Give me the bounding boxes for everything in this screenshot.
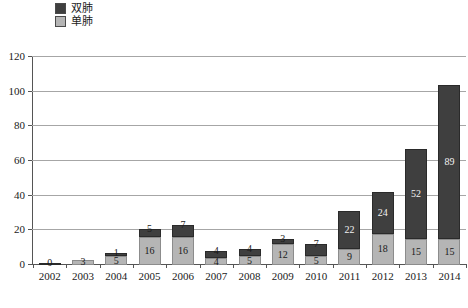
bar-stack[interactable]: 2418 [372, 192, 394, 265]
bar-segment-double-lung[interactable]: 24 [372, 192, 394, 234]
bar-segment-single-lung[interactable]: 16 [172, 237, 194, 265]
bar-value-label-single-lung: 9 [347, 252, 352, 262]
bar-stack[interactable]: 312 [272, 239, 294, 265]
bar-segment-single-lung[interactable]: 9 [338, 249, 360, 265]
stacked-bar-chart: 020406080100120 031551671644453127522924… [0, 48, 468, 308]
bar-value-label-double-lung: 4 [247, 244, 252, 254]
bar-group-2013[interactable]: 5215 [399, 56, 432, 265]
y-tick-mark [28, 264, 32, 265]
bar-value-label-single-lung: 16 [145, 246, 155, 256]
y-tick-label: 120 [9, 51, 26, 62]
bar-value-label-single-lung: 18 [378, 244, 388, 254]
bar-value-label-single-lung: 16 [178, 246, 188, 256]
bar-group-2011[interactable]: 229 [333, 56, 366, 265]
legend-item-double-lung: 双肺 [55, 2, 175, 14]
bar-stack[interactable]: 8915 [438, 85, 460, 265]
x-tick-mark [133, 264, 134, 268]
bar-stack[interactable]: 5215 [405, 149, 427, 265]
bar-segment-double-lung[interactable]: 52 [405, 149, 427, 239]
x-tick-label-2009: 2009 [266, 270, 299, 282]
bar-stack[interactable]: 0 [39, 263, 61, 265]
x-tick-label-2008: 2008 [233, 270, 266, 282]
bar-segment-single-lung[interactable]: 3 [72, 260, 94, 265]
y-tick-label: 20 [14, 224, 25, 235]
bar-segment-double-lung[interactable]: 89 [438, 85, 460, 239]
bar-segment-single-lung[interactable]: 15 [405, 239, 427, 265]
bar-group-2005[interactable]: 516 [133, 56, 166, 265]
x-tick-label-2004: 2004 [100, 270, 133, 282]
bar-segment-single-lung[interactable]: 12 [272, 244, 294, 265]
x-tick-mark [333, 264, 334, 268]
x-tick-label-2003: 2003 [66, 270, 99, 282]
bar-value-label-single-lung: 12 [278, 250, 288, 260]
bar-segment-double-lung[interactable]: 0 [39, 263, 61, 265]
bar-stack[interactable]: 15 [105, 253, 127, 265]
bar-value-label-double-lung: 3 [280, 234, 285, 244]
bar-segment-single-lung[interactable]: 5 [239, 256, 261, 265]
bar-stack[interactable]: 229 [338, 211, 360, 265]
bar-segment-single-lung[interactable]: 16 [139, 237, 161, 265]
bar-group-2010[interactable]: 75 [300, 56, 333, 265]
bar-value-label-single-lung: 5 [114, 256, 119, 266]
y-tick-label: 80 [14, 120, 25, 131]
y-tick-mark [28, 195, 32, 196]
y-tick-label: 40 [14, 189, 25, 200]
bar-group-2014[interactable]: 8915 [433, 56, 466, 265]
y-tick-mark [28, 91, 32, 92]
y-tick-mark [28, 56, 32, 57]
bar-value-label-double-lung: 5 [147, 224, 152, 234]
bar-stack[interactable]: 3 [72, 260, 94, 265]
y-tick-mark [28, 160, 32, 161]
x-tick-label-2002: 2002 [33, 270, 66, 282]
bar-segment-double-lung[interactable]: 5 [139, 229, 161, 238]
x-tick-mark [200, 264, 201, 268]
bar-value-label-single-lung: 3 [80, 257, 85, 267]
bar-stack[interactable]: 44 [205, 251, 227, 265]
x-tick-label-2011: 2011 [333, 270, 366, 282]
x-tick-label-2014: 2014 [433, 270, 466, 282]
bar-segment-double-lung[interactable]: 22 [338, 211, 360, 249]
bar-segment-single-lung[interactable]: 5 [305, 256, 327, 265]
x-tick-label-2010: 2010 [300, 270, 333, 282]
x-tick-mark [66, 264, 67, 268]
x-tick-mark [433, 264, 434, 268]
x-tick-mark [100, 264, 101, 268]
x-tick-mark [33, 264, 34, 268]
bar-stack[interactable]: 75 [305, 244, 327, 265]
bar-stack[interactable]: 716 [172, 225, 194, 265]
bar-segment-single-lung[interactable]: 4 [205, 258, 227, 265]
bar-group-2003[interactable]: 3 [66, 56, 99, 265]
bar-group-2002[interactable]: 0 [33, 56, 66, 265]
bar-group-2004[interactable]: 15 [100, 56, 133, 265]
x-tick-label-2005: 2005 [133, 270, 166, 282]
x-tick-mark [399, 264, 400, 268]
bar-group-2007[interactable]: 44 [200, 56, 233, 265]
bar-group-2009[interactable]: 312 [266, 56, 299, 265]
bar-segment-single-lung[interactable]: 15 [438, 239, 460, 265]
x-tick-mark [233, 264, 234, 268]
bar-value-label-single-lung: 15 [444, 247, 454, 257]
bar-segment-single-lung[interactable]: 5 [105, 256, 127, 265]
x-tick-label-2013: 2013 [399, 270, 432, 282]
bar-value-label-double-lung: 7 [314, 239, 319, 249]
y-tick-mark [28, 125, 32, 126]
x-tick-label-2012: 2012 [366, 270, 399, 282]
bar-stack[interactable]: 45 [239, 249, 261, 265]
bar-stack[interactable]: 516 [139, 229, 161, 265]
bar-value-label-single-lung: 4 [214, 257, 219, 267]
legend-item-single-lung: 单肺 [55, 15, 175, 27]
bar-segment-double-lung[interactable]: 7 [172, 225, 194, 237]
bar-value-label-double-lung: 52 [411, 189, 421, 199]
bar-segment-single-lung[interactable]: 18 [372, 234, 394, 265]
bar-value-label-double-lung: 7 [180, 220, 185, 230]
x-tick-mark [299, 264, 300, 268]
legend-label-single-lung: 单肺 [71, 16, 93, 27]
y-tick-mark [28, 229, 32, 230]
y-tick-label: 60 [14, 155, 25, 166]
bar-group-2008[interactable]: 45 [233, 56, 266, 265]
legend-swatch-double-lung [55, 3, 66, 14]
y-tick-label: 100 [9, 85, 26, 96]
bar-group-2012[interactable]: 2418 [366, 56, 399, 265]
bar-group-2006[interactable]: 716 [166, 56, 199, 265]
bar-value-label-single-lung: 15 [411, 247, 421, 257]
